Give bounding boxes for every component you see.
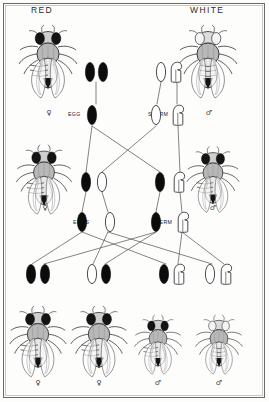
genotype-f2-4 (205, 264, 231, 284)
genotype-f2-3 (159, 264, 184, 284)
fly-f2-red-female-1 (10, 306, 66, 377)
line-p-male-x-to-sperm (157, 82, 161, 104)
genotype-f2-1 (26, 264, 49, 283)
fly-f1-red-female (16, 145, 71, 214)
genotype-f1-female (81, 172, 106, 191)
fly-f2-red-male (135, 315, 182, 374)
line-sperm-x-to-f1-female (102, 126, 156, 172)
genotype-parental-female (85, 62, 107, 81)
inheritance-figure: RED WHITE EGG SPERM EGGS SPERM ♀ ♂ ♀ ♂ ♀… (0, 0, 269, 402)
fly-f2-red-female-2 (71, 306, 127, 377)
line-f1-male-to-sperm-a (156, 192, 160, 212)
line-f1-female-to-eggs-a (82, 192, 86, 212)
gamete-eggs-f1 (77, 212, 114, 231)
fly-f1-red-male (187, 147, 239, 213)
fly-parental-red-female (19, 25, 77, 98)
line-sperm-y-to-f1-male (178, 126, 180, 172)
line-eggX-to-f2-1 (32, 232, 82, 264)
line-f1-male-to-sperm-b (180, 192, 182, 212)
line-spermX-to-f2-2 (105, 232, 156, 264)
line-egg-to-f1-male (92, 126, 160, 172)
line-f1-female-to-eggs-b (102, 192, 108, 212)
line-egg-to-f1-female (86, 126, 92, 172)
genotype-f1-male (155, 172, 184, 192)
fly-parental-white-male (179, 25, 237, 98)
pedigree-connectors (32, 82, 224, 264)
diagram-canvas (0, 0, 269, 402)
line-spermX-to-f2-1 (44, 232, 156, 264)
line-spermY-to-f2-3 (178, 232, 182, 264)
line-spermY-to-f2-4 (182, 232, 224, 264)
gamete-sperm-parental (151, 105, 183, 125)
gamete-egg-parental (87, 105, 96, 124)
genotype-parental-male (156, 62, 181, 82)
fly-f2-white-male (196, 315, 243, 374)
gamete-sperm-f1 (151, 212, 188, 232)
genotype-f2-2 (87, 264, 110, 283)
